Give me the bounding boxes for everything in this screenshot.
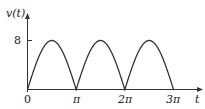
x-tick-label-pi: π <box>72 93 81 106</box>
y-axis-label: v(t) <box>6 7 25 20</box>
chart: v(t) 8 0 π 2π 3π t <box>0 0 205 109</box>
x-tick-label-2pi: 2π <box>117 93 133 106</box>
x-axis-arrow-icon <box>197 87 203 92</box>
y-tick-label-8: 8 <box>14 34 21 47</box>
x-tick-label-3pi: 3π <box>166 93 181 106</box>
rectified-sine-curve <box>28 41 174 90</box>
x-axis-label: t <box>195 93 200 106</box>
x-tick-label-0: 0 <box>24 93 31 106</box>
y-axis-arrow-icon <box>25 13 30 19</box>
